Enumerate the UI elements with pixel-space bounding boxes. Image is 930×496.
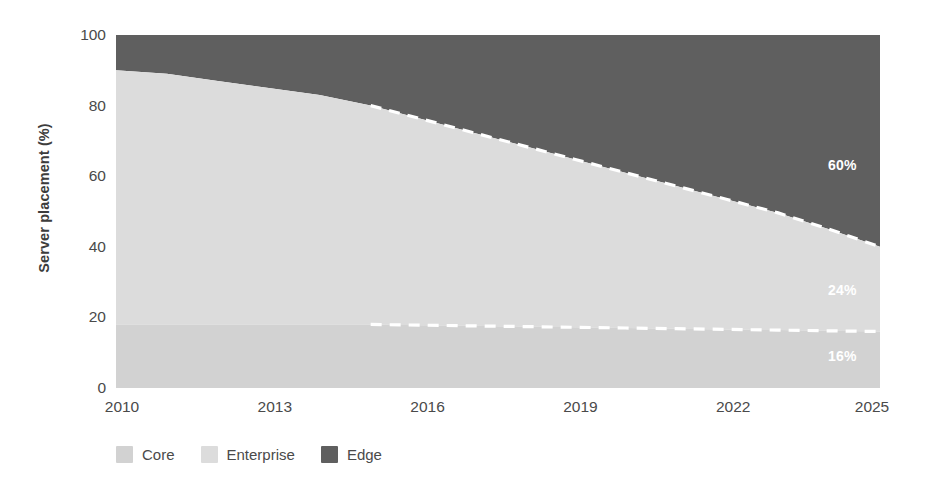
legend-item-core[interactable]: Core — [116, 446, 175, 463]
chart-legend: Core Enterprise Edge — [116, 443, 408, 465]
plot-area: 60% 24% 16% — [116, 35, 880, 388]
y-tick-20: 20 — [89, 308, 106, 326]
x-tick-2019: 2019 — [563, 398, 597, 416]
legend-swatch-enterprise-icon — [201, 446, 218, 463]
area-series-svg — [116, 35, 880, 388]
value-label-enterprise: 24% — [828, 282, 857, 298]
y-tick-100: 100 — [80, 26, 106, 44]
area-band-core — [116, 324, 880, 388]
value-label-edge: 60% — [828, 157, 857, 173]
y-tick-0: 0 — [97, 379, 106, 397]
legend-label-enterprise: Enterprise — [227, 446, 295, 463]
x-tick-2010: 2010 — [105, 398, 139, 416]
x-tick-2016: 2016 — [410, 398, 444, 416]
x-axis-tick-labels: 2010 2013 2016 2019 2022 2025 — [0, 398, 930, 424]
legend-swatch-core-icon — [116, 446, 133, 463]
stacked-area-chart: Server placement (%) 100 80 60 40 20 0 6… — [0, 0, 930, 496]
x-tick-2013: 2013 — [258, 398, 292, 416]
legend-swatch-edge-icon — [321, 446, 338, 463]
y-axis-title: Server placement (%) — [36, 68, 52, 328]
x-tick-2025: 2025 — [855, 398, 889, 416]
x-tick-2022: 2022 — [716, 398, 750, 416]
legend-label-edge: Edge — [347, 446, 382, 463]
y-tick-60: 60 — [89, 167, 106, 185]
y-tick-80: 80 — [89, 97, 106, 115]
legend-item-enterprise[interactable]: Enterprise — [201, 446, 295, 463]
legend-item-edge[interactable]: Edge — [321, 446, 382, 463]
value-label-core: 16% — [828, 348, 857, 364]
legend-label-core: Core — [142, 446, 175, 463]
y-tick-40: 40 — [89, 238, 106, 256]
